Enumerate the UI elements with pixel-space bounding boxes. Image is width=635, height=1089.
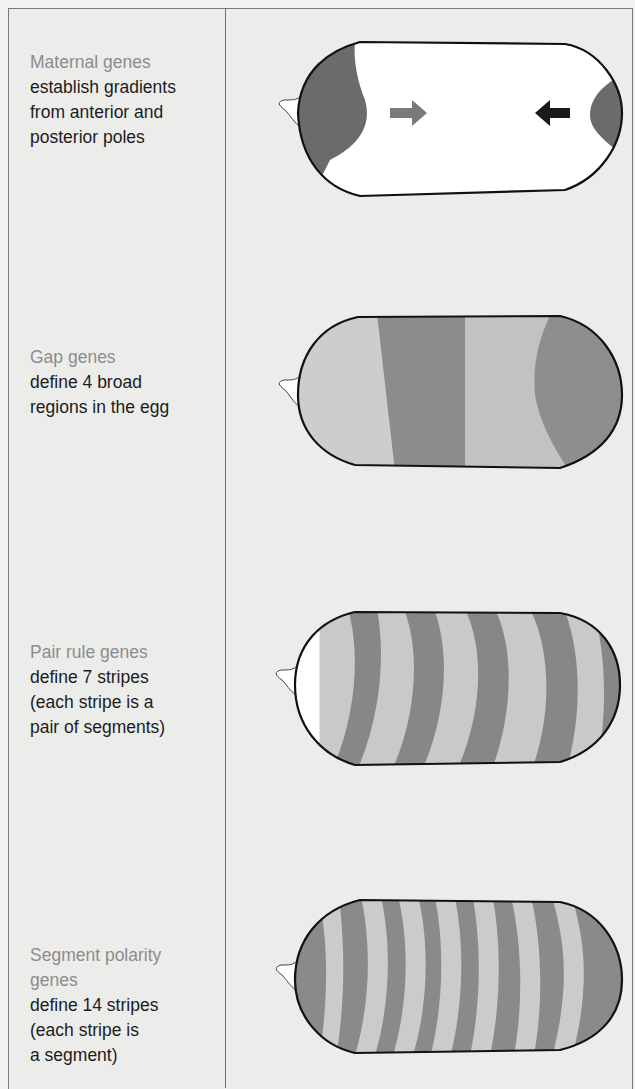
micropyle-icon [279,376,300,407]
egg-pair-rule-diagram [260,600,630,775]
micropyle-icon [279,97,300,127]
stage-title: Pair rule genes [30,640,225,665]
stage-label-segment-polarity: Segment polarity genes define 14 stripes… [30,943,225,1068]
micropyle-icon [276,961,297,991]
egg-segment-polarity-diagram [260,885,630,1065]
stage-description: define 14 stripes (each stripe is a segm… [30,993,225,1068]
stage-description: define 4 broad regions in the egg [30,370,225,420]
micropyle-icon [276,666,297,696]
egg-gap-diagram [260,305,630,480]
stage-label-gap: Gap genes define 4 broad regions in the … [30,345,225,420]
column-divider [225,8,226,1088]
egg-maternal-diagram [260,30,630,210]
stage-title: Gap genes [30,345,225,370]
stage-description: define 7 stripes (each stripe is a pair … [30,665,225,740]
stage-label-pair-rule: Pair rule genes define 7 stripes (each s… [30,640,225,740]
stage-description: establish gradients from anterior and po… [30,75,225,150]
stage-label-maternal: Maternal genes establish gradients from … [30,50,225,150]
stage-title: Maternal genes [30,50,225,75]
stage-title: Segment polarity genes [30,943,225,993]
